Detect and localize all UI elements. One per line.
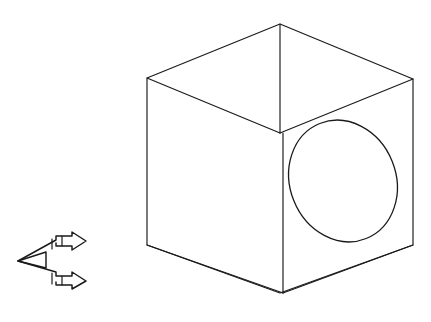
cube-inner-edge-bottom-to-right [283, 245, 413, 293]
circular-hole-group [271, 104, 416, 259]
technical-drawing-svg [0, 0, 431, 322]
cube-inner-edge-center-to-right [280, 79, 413, 133]
technical-drawing-canvas [0, 0, 431, 322]
projection-direction-symbol [18, 232, 86, 289]
circular-hole-ellipse [271, 104, 416, 259]
cube-inner-edge-bottom-to-left [147, 245, 283, 293]
isometric-cube [147, 24, 413, 293]
cube-inner-edge-center-to-left [147, 78, 280, 133]
